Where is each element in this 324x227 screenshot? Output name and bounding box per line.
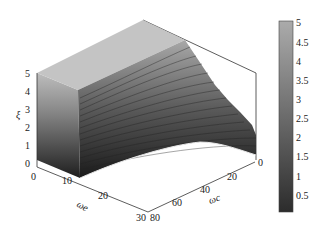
svg-text:0: 0 — [25, 158, 30, 169]
surface-left-face — [37, 73, 80, 178]
svg-text:0.5: 0.5 — [296, 190, 309, 201]
svg-text:10: 10 — [62, 175, 72, 186]
svg-text:2: 2 — [25, 122, 30, 133]
svg-text:4: 4 — [25, 86, 30, 97]
svg-text:3: 3 — [25, 104, 30, 115]
svg-text:20: 20 — [98, 190, 108, 201]
x-axis-ticks: 0 10 20 30 — [31, 171, 146, 223]
z-axis-ticks: 5 4 3 2 1 0 — [25, 68, 30, 169]
svg-text:30: 30 — [136, 212, 146, 223]
svg-text:3.5: 3.5 — [296, 75, 309, 86]
svg-text:3: 3 — [296, 94, 301, 105]
svg-text:2: 2 — [296, 132, 301, 143]
svg-text:40: 40 — [200, 184, 210, 195]
svg-text:0: 0 — [258, 157, 263, 168]
svg-text:60: 60 — [172, 197, 182, 208]
svg-text:4: 4 — [296, 56, 301, 67]
svg-text:1: 1 — [296, 171, 301, 182]
svg-text:20: 20 — [227, 171, 237, 182]
z-axis-label: ξ — [16, 109, 21, 121]
svg-text:0: 0 — [31, 171, 36, 182]
svg-text:80: 80 — [150, 212, 160, 223]
svg-text:5: 5 — [296, 17, 301, 28]
colorbar: 5 4.5 4 3.5 3 2.5 2 1.5 1 0.5 — [279, 17, 309, 212]
svg-text:2.5: 2.5 — [296, 113, 309, 124]
svg-text:1: 1 — [25, 140, 30, 151]
svg-text:4.5: 4.5 — [296, 37, 309, 48]
svg-text:5: 5 — [25, 68, 30, 79]
svg-text:1.5: 1.5 — [296, 151, 309, 162]
y-axis-ticks: 80 60 40 20 0 — [150, 157, 263, 223]
surface-plot: 5 4 3 2 1 0 ξ 0 10 20 30 ωe 80 60 40 20 … — [0, 0, 324, 227]
x-axis-label: ωe — [75, 198, 91, 214]
